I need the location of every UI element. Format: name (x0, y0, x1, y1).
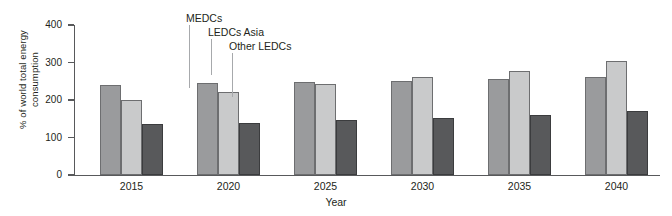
annotation-leader-line (232, 53, 233, 97)
bar (315, 84, 336, 175)
x-tick-label: 2025 (286, 180, 366, 192)
x-axis-line (74, 175, 660, 176)
bar (197, 83, 218, 175)
bar (627, 111, 648, 175)
bar (218, 92, 239, 175)
bar (391, 81, 412, 175)
bar (433, 118, 454, 175)
x-tick-label: 2040 (577, 180, 657, 192)
y-tick-label: 200 (22, 95, 62, 105)
bar (606, 61, 627, 175)
bar-group (100, 25, 163, 175)
bar (412, 77, 433, 175)
bar (488, 79, 509, 175)
x-axis-title: Year (0, 196, 672, 208)
bar-group (294, 25, 357, 175)
bar (530, 115, 551, 175)
x-tick-label: 2035 (480, 180, 560, 192)
bar (121, 100, 142, 175)
x-tick-label: 2015 (92, 180, 172, 192)
bar (294, 82, 315, 175)
annotation-label: LEDCs Asia (208, 26, 264, 38)
bar-chart: % of world total energy consumption 0100… (0, 0, 672, 216)
y-tick-label: 100 (22, 133, 62, 143)
bar (142, 124, 163, 175)
bar-group (391, 25, 454, 175)
annotation-label: Other LEDCs (229, 40, 291, 52)
bar (509, 71, 530, 175)
y-tick-label: 0 (22, 170, 62, 180)
y-tick-label: 300 (22, 58, 62, 68)
annotation-label: MEDCs (186, 12, 222, 24)
bar (100, 85, 121, 175)
y-tick-label: 400 (22, 20, 62, 30)
bar (336, 120, 357, 175)
annotation-leader-line (211, 39, 212, 75)
x-tick-label: 2030 (383, 180, 463, 192)
x-tick-label: 2020 (189, 180, 269, 192)
plot-area (74, 25, 660, 175)
bar-group (585, 25, 648, 175)
bar-group (488, 25, 551, 175)
bar (239, 123, 260, 175)
annotation-leader-line (189, 25, 190, 88)
bar (585, 77, 606, 175)
